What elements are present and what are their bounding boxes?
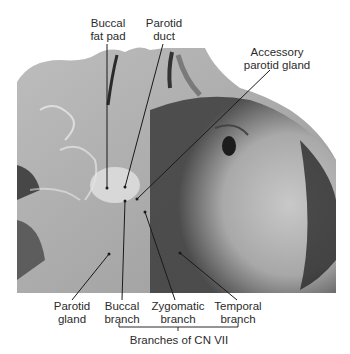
anatomy-figure: Buccal fat pad Parotid duct Accessory pa… bbox=[0, 0, 350, 354]
label-buccal-branch: Buccal branch bbox=[100, 300, 144, 326]
label-buccal-fat-pad: Buccal fat pad bbox=[86, 17, 130, 43]
label-branches-cn-vii: Branches of CN VII bbox=[124, 334, 234, 347]
label-zygomatic-branch: Zygomatic branch bbox=[148, 300, 208, 326]
label-parotid-gland: Parotid gland bbox=[50, 300, 94, 326]
label-parotid-duct: Parotid duct bbox=[142, 17, 186, 43]
label-accessory-parotid-gland: Accessory parotid gland bbox=[236, 46, 318, 72]
label-temporal-branch: Temporal branch bbox=[212, 300, 264, 326]
